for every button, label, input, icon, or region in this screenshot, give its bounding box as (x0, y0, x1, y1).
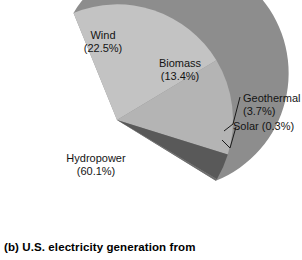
figure-caption: (b) U.S. electricity generation from (4, 240, 195, 255)
pie-chart-figure: Wind (22.5%) Biomass (13.4%) Hydropower … (0, 0, 302, 260)
slice-label-solar: Solar (0.3%) (233, 120, 294, 133)
slice-label-solar-name: Solar (0.3%) (233, 120, 294, 133)
slice-label-geothermal-value: (3.7%) (243, 105, 300, 118)
slice-label-geothermal: Geothermal (3.7%) (243, 92, 300, 118)
slice-label-geothermal-name: Geothermal (243, 92, 300, 105)
